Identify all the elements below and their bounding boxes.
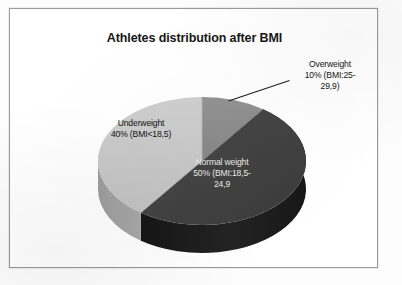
pie-label-overweight-line2: 10% (BMI:25-	[282, 70, 378, 81]
chart-frame: Athletes distribution after BMI	[9, 8, 378, 268]
scanned-page: Athletes distribution after BMI	[0, 0, 402, 285]
pie-label-normal-weight: Normal weight 50% (BMI:18,5- 24,9	[170, 157, 274, 191]
pie-label-overweight: Overweight 10% (BMI:25- 29,9)	[282, 59, 378, 93]
pie-label-normal-weight-line2: 50% (BMI:18,5-	[170, 168, 274, 179]
pie-label-overweight-line1: Overweight	[282, 59, 378, 70]
pie-label-underweight-line2: 40% (BMI<18,5)	[88, 129, 194, 140]
pie-label-overweight-line3: 29,9)	[282, 81, 378, 92]
pie-label-underweight: Underweight 40% (BMI<18,5)	[88, 118, 194, 140]
pie-label-underweight-line1: Underweight	[88, 118, 194, 129]
pie-label-normal-weight-line1: Normal weight	[170, 157, 274, 168]
pie-chart-graphic	[10, 9, 379, 269]
leader-line-overweight	[229, 81, 290, 102]
pie-label-normal-weight-line3: 24,9	[170, 179, 274, 190]
